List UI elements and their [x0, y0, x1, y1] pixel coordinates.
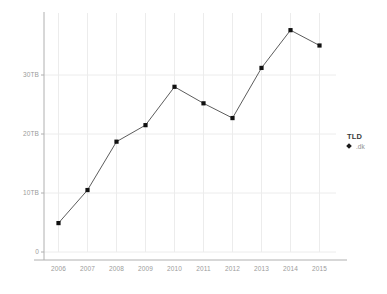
- data-point-marker: [288, 28, 292, 32]
- legend-title: TLD: [347, 132, 387, 141]
- plot-area: [0, 0, 387, 294]
- x-axis-tick-label: 2009: [132, 265, 160, 272]
- series-layer: [56, 28, 321, 225]
- diamond-marker-icon: [346, 143, 353, 150]
- y-axis-tick-label: 20TB: [23, 130, 39, 137]
- data-point-marker: [317, 43, 321, 47]
- data-point-marker: [201, 101, 205, 105]
- legend-entries: .dk: [345, 143, 387, 150]
- y-axis-tick-label: 30TB: [23, 71, 39, 78]
- legend: TLD .dk: [345, 132, 387, 150]
- data-point-marker: [230, 116, 234, 120]
- x-axis-tick-label: 2012: [219, 265, 247, 272]
- gridlines: [44, 13, 336, 252]
- y-axis-tick-label: 10TB: [23, 189, 39, 196]
- data-point-marker: [143, 123, 147, 127]
- x-axis-tick-label: 2013: [248, 265, 276, 272]
- y-axis-tick-label: 0: [35, 248, 39, 255]
- data-point-marker: [85, 188, 89, 192]
- x-axis-tick-label: 2007: [74, 265, 102, 272]
- legend-item[interactable]: .dk: [346, 143, 387, 150]
- x-axis-tick-label: 2008: [103, 265, 131, 272]
- x-axis-tick-label: 2006: [45, 265, 73, 272]
- line-chart: 30TB20TB10TB0 20062007200820092010201120…: [0, 0, 387, 294]
- x-axis-tick-label: 2011: [190, 265, 218, 272]
- x-axis-tick-label: 2015: [306, 265, 334, 272]
- axis-lines: [34, 12, 347, 260]
- data-point-marker: [56, 221, 60, 225]
- legend-item-label: .dk: [356, 143, 365, 150]
- series-line: [59, 30, 320, 223]
- data-point-marker: [114, 140, 118, 144]
- data-point-marker: [259, 66, 263, 70]
- x-axis-tick-label: 2010: [161, 265, 189, 272]
- x-axis-tick-label: 2014: [277, 265, 305, 272]
- data-point-marker: [172, 85, 176, 89]
